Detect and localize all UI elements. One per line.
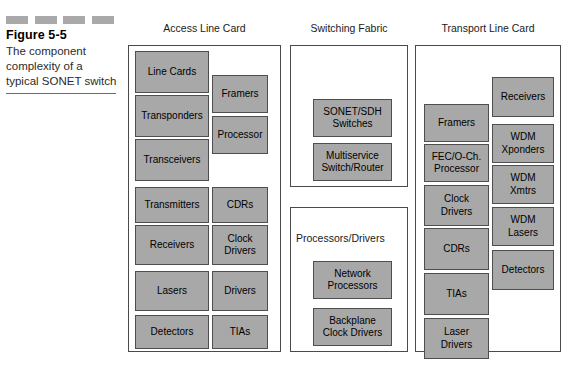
caption-dash (6, 16, 28, 24)
block-fec-och-processor[interactable]: FEC/O-Ch. Processor (424, 144, 489, 182)
block-label: Clock (227, 233, 252, 246)
block-framers[interactable]: Framers (212, 75, 268, 113)
block-label: Processor (434, 163, 479, 176)
block-wdm-xponders[interactable]: WDM Xponders (492, 124, 554, 163)
caption-dash (35, 16, 57, 24)
block-label: Drivers (224, 285, 256, 298)
block-label: Processors (327, 280, 377, 293)
caption-dash (92, 16, 114, 24)
block-network-processors[interactable]: Network Processors (313, 261, 392, 299)
block-laser-drivers[interactable]: Laser Drivers (424, 318, 489, 359)
block-transport-receivers[interactable]: Receivers (492, 77, 554, 117)
block-label: Processor (217, 129, 262, 142)
panel-processors-drivers: Processors/Drivers Network Processors Ba… (290, 207, 408, 352)
block-label: Receivers (501, 91, 545, 104)
block-drivers[interactable]: Drivers (212, 271, 268, 311)
figure-number: Figure 5-5 (6, 28, 67, 42)
block-label: Lasers (508, 227, 538, 240)
block-label: Lasers (157, 285, 187, 298)
block-label: TIAs (230, 326, 251, 339)
block-label: Network (334, 268, 371, 281)
block-detectors[interactable]: Detectors (135, 315, 209, 349)
block-label: Switches (332, 118, 372, 131)
block-label: Transceivers (144, 154, 201, 167)
block-lasers[interactable]: Lasers (135, 271, 209, 311)
block-label: Drivers (224, 245, 256, 258)
block-label: CDRs (227, 199, 254, 212)
block-label: WDM (511, 131, 536, 144)
block-processor[interactable]: Processor (212, 116, 268, 154)
caption-underline (6, 93, 116, 94)
block-label: Transponders (141, 110, 202, 123)
block-tias[interactable]: TIAs (212, 315, 268, 349)
block-wdm-xmtrs[interactable]: WDM Xmtrs (492, 165, 554, 204)
block-label: Framers (438, 117, 475, 130)
block-transport-detectors[interactable]: Detectors (492, 250, 554, 290)
block-label: WDM (511, 214, 536, 227)
block-line-cards[interactable]: Line Cards (135, 51, 209, 93)
block-backplane-clock-drivers[interactable]: Backplane Clock Drivers (313, 308, 392, 346)
block-label: WDM (511, 172, 536, 185)
block-label: Detectors (502, 264, 545, 277)
block-receivers[interactable]: Receivers (135, 225, 209, 265)
block-label: Clock Drivers (323, 327, 382, 340)
panel-access-line-card: Line Cards Transponders Transceivers Tra… (128, 45, 281, 352)
block-sonet-sdh-switches[interactable]: SONET/SDH Switches (313, 99, 392, 137)
block-label: Multiservice (326, 150, 379, 163)
block-clock-drivers[interactable]: Clock Drivers (212, 225, 268, 265)
block-label: Switch/Router (321, 162, 383, 175)
block-label: Clock (444, 193, 469, 206)
block-transmitters[interactable]: Transmitters (135, 187, 209, 223)
block-transport-tias[interactable]: TIAs (424, 273, 489, 315)
block-transport-cdrs[interactable]: CDRs (424, 228, 489, 270)
block-transport-framers[interactable]: Framers (424, 104, 489, 142)
block-label: Drivers (441, 339, 473, 352)
block-label: Backplane (329, 315, 376, 328)
block-label: SONET/SDH (323, 106, 381, 119)
block-label: CDRs (443, 243, 470, 256)
panel-label-processors-drivers: Processors/Drivers (296, 232, 385, 244)
block-transponders[interactable]: Transponders (135, 95, 209, 137)
block-label: Receivers (150, 239, 194, 252)
panel-heading-switching-fabric: Switching Fabric (290, 22, 408, 34)
block-label: TIAs (446, 288, 467, 301)
block-cdrs[interactable]: CDRs (212, 187, 268, 223)
figure-caption: The component complexity of a typical SO… (6, 44, 118, 89)
block-label: Detectors (151, 326, 194, 339)
block-transport-clock-drivers[interactable]: Clock Drivers (424, 185, 489, 226)
panel-heading-transport-line-card: Transport Line Card (415, 22, 561, 34)
block-wdm-lasers[interactable]: WDM Lasers (492, 207, 554, 246)
block-label: FEC/O-Ch. (432, 151, 481, 164)
caption-dash (63, 16, 85, 24)
figure-root: Figure 5-5 The component complexity of a… (0, 0, 578, 367)
block-transceivers[interactable]: Transceivers (135, 139, 209, 181)
block-label: Framers (221, 88, 258, 101)
block-label: Xponders (502, 144, 545, 157)
block-label: Drivers (441, 206, 473, 219)
block-label: Laser (444, 326, 469, 339)
block-label: Transmitters (144, 199, 199, 212)
panel-heading-access-line-card: Access Line Card (128, 22, 281, 34)
panel-switching-fabric: SONET/SDH Switches Multiservice Switch/R… (290, 45, 408, 187)
block-label: Xmtrs (510, 185, 536, 198)
block-multiservice-switch-router[interactable]: Multiservice Switch/Router (313, 143, 392, 181)
panel-transport-line-card: Framers FEC/O-Ch. Processor Clock Driver… (415, 45, 561, 352)
caption-dash-rule (6, 16, 114, 24)
block-label: Line Cards (148, 66, 196, 79)
